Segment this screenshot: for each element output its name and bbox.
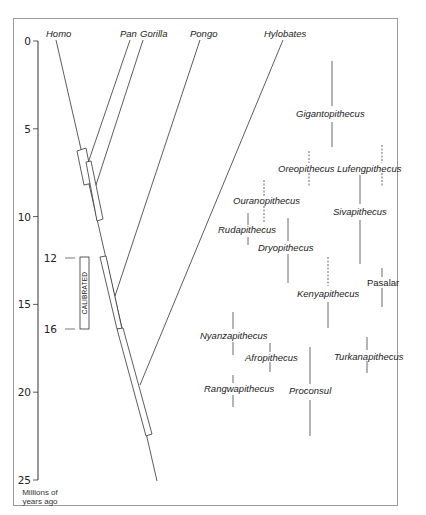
divergence-box-hylobates [117, 328, 152, 436]
axis-tick-label: 0 [24, 35, 31, 47]
label-dryopithecus: Dryopithecus [258, 242, 314, 253]
label-pan: Pan [120, 28, 137, 39]
label-hylobates: Hylobates [264, 28, 306, 39]
label-turkanapithecus: Turkanapithecus [334, 351, 404, 362]
time-axis: 0510152025 Millions of years ago [18, 35, 59, 506]
label-pongo: Pongo [190, 28, 217, 39]
axis-unit-label-2: years ago [22, 497, 58, 506]
label-sivapithecus: Sivapithecus [333, 206, 387, 217]
axis-tick-label: 20 [18, 386, 31, 398]
label-nyanzapithecus: Nyanzapithecus [200, 330, 268, 341]
label-afropithecus: Afropithecus [244, 352, 298, 363]
pongo-lineage [115, 40, 200, 296]
axis-unit-label-1: Millions of [22, 488, 58, 497]
lineage-lines [56, 40, 283, 481]
label-pasalar: Pasalar [367, 277, 399, 288]
label-oreopithecus: Oreopithecus [278, 163, 335, 174]
calibration-start-label: 12 [44, 252, 57, 264]
axis-tick-label: 5 [24, 123, 31, 135]
calibration-label: CALIBRATED [81, 272, 88, 314]
label-rudapithecus: Rudapithecus [218, 224, 276, 235]
calibration-end-label: 16 [44, 323, 58, 335]
axis-tick-label: 15 [18, 298, 31, 310]
label-ouranopithecus: Ouranopithecus [233, 195, 300, 206]
label-rangwapithecus: Rangwapithecus [204, 383, 274, 394]
label-gigantopithecus: Gigantopithecus [296, 108, 365, 119]
axis-tick-label: 25 [18, 474, 31, 486]
gorilla-lineage [95, 40, 143, 188]
label-homo: Homo [46, 28, 71, 39]
calibration-bracket: 12 16 CALIBRATED [44, 252, 89, 335]
label-kenyapithecus: Kenyapithecus [297, 288, 360, 299]
label-lufengpithecus: Lufengpithecus [337, 163, 402, 174]
axis-tick-label: 10 [18, 211, 31, 223]
fossil-ranges: Gigantopithecus Oreopithecus Lufengpithe… [200, 61, 404, 436]
lineage-labels: Homo Pan Gorilla Pongo Hylobates [46, 28, 306, 39]
label-gorilla: Gorilla [140, 28, 167, 39]
phylogeny-diagram: 0510152025 Millions of years ago 12 16 C… [0, 0, 426, 515]
label-proconsul: Proconsul [289, 385, 332, 396]
divergence-box-pongo [100, 256, 122, 329]
